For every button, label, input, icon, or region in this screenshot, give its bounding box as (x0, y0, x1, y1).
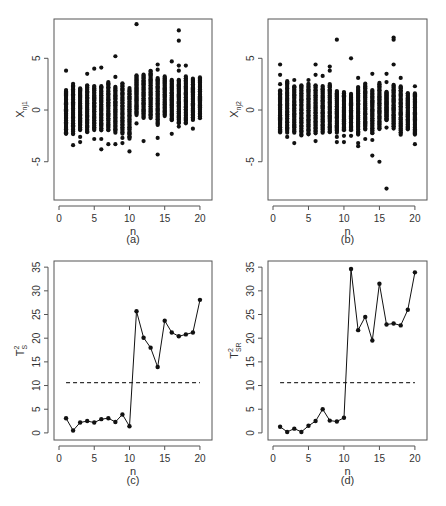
outlier-point (64, 127, 68, 131)
y-axis-label: T2S (13, 345, 28, 357)
data-point (71, 82, 75, 86)
outlier-point (392, 62, 396, 66)
data-point (356, 85, 360, 89)
panel-caption: (c) (127, 474, 140, 486)
outlier-point (356, 76, 360, 80)
outlier-point (313, 73, 317, 77)
data-point (299, 430, 303, 434)
outlier-point (92, 137, 96, 141)
x-tick-label: 5 (91, 213, 97, 224)
x-tick-label: 15 (374, 453, 386, 464)
y-tick-label: 5 (245, 406, 256, 412)
outlier-point (335, 135, 339, 139)
data-point (406, 308, 410, 312)
data-point (384, 322, 388, 326)
data-point (163, 74, 167, 78)
outlier-point (134, 121, 138, 125)
outlier-point (342, 134, 346, 138)
outlier-point (370, 138, 374, 142)
data-point (127, 424, 131, 428)
series-line (66, 300, 200, 431)
data-point (184, 332, 188, 336)
data-point (92, 420, 96, 424)
data-point (106, 416, 110, 420)
plot-frame (54, 261, 212, 440)
data-point (99, 417, 103, 421)
data-point (363, 315, 367, 319)
data-point (335, 419, 339, 423)
outlier-point (127, 149, 131, 153)
x-tick-label: 10 (338, 453, 350, 464)
y-tick-label: 35 (31, 261, 42, 273)
data-point (306, 424, 310, 428)
data-point (134, 73, 138, 77)
outlier-point (170, 132, 174, 136)
outlier-point (113, 75, 117, 79)
y-axis: -505 (245, 55, 262, 166)
data-point (85, 83, 89, 87)
outlier-point (78, 140, 82, 144)
y-tick-label: 5 (31, 55, 42, 61)
outlier-point (278, 73, 282, 77)
outlier-point (399, 76, 403, 80)
data-point (356, 328, 360, 332)
outlier-point (191, 127, 195, 131)
data-point (370, 88, 374, 92)
x-axis: 05101520 (56, 446, 206, 464)
outlier-point (134, 22, 138, 26)
data-point (285, 430, 289, 434)
x-tick-label: 0 (56, 213, 62, 224)
data-point (120, 81, 124, 85)
plot-frame (54, 19, 212, 200)
y-axis-label: Xnj1 (14, 101, 29, 118)
x-tick-label: 5 (91, 453, 97, 464)
data-point (320, 407, 324, 411)
data-point (278, 425, 282, 429)
x-tick-label: 10 (124, 213, 136, 224)
data-point (177, 78, 181, 82)
outlier-point (370, 72, 374, 76)
data-point (64, 88, 68, 92)
x-tick-label: 5 (306, 453, 312, 464)
data-point (299, 83, 303, 87)
outlier-point (141, 139, 145, 143)
outlier-point (71, 143, 75, 147)
y-tick-label: 15 (31, 356, 42, 368)
data-point (349, 92, 353, 96)
data-point (335, 89, 339, 93)
outlier-point (92, 67, 96, 71)
data-point (370, 338, 374, 342)
x-tick-label: 10 (124, 453, 136, 464)
outlier-point (64, 69, 68, 73)
data-point (177, 334, 181, 338)
outlier-point (392, 38, 396, 42)
panel-caption: (a) (126, 233, 139, 245)
data-point (156, 76, 160, 80)
data-point (120, 412, 124, 416)
outlier-point (306, 78, 310, 82)
outlier-point (292, 78, 296, 82)
outlier-point (120, 141, 124, 145)
outlier-point (278, 82, 282, 86)
y-label-sup: 2 (13, 345, 20, 349)
data-point (328, 82, 332, 86)
outlier-point (413, 142, 417, 146)
outlier-point (328, 64, 332, 68)
data-point (399, 323, 403, 327)
data-point (170, 78, 174, 82)
y-axis-label: Xnj2 (228, 101, 243, 118)
outlier-point (370, 153, 374, 157)
outlier-point (278, 62, 282, 66)
outlier-point (99, 137, 103, 141)
data-point (78, 420, 82, 424)
y-tick-label: 0 (31, 107, 42, 113)
outlier-point (349, 56, 353, 60)
y-tick-label: -5 (245, 157, 256, 166)
data-point (349, 267, 353, 271)
y-tick-label: 0 (245, 107, 256, 113)
data-point (106, 80, 110, 84)
y-tick-label: 15 (245, 356, 256, 368)
x-tick-label: 10 (338, 213, 350, 224)
data-point (328, 418, 332, 422)
outlier-point (99, 66, 103, 70)
